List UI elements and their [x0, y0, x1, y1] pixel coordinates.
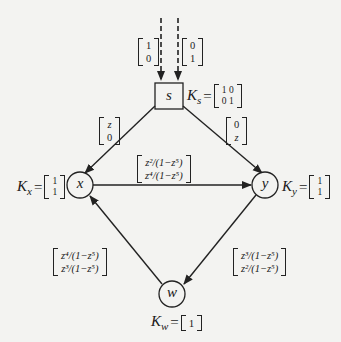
cell: 1 0 — [222, 85, 234, 96]
cell: 0 — [146, 52, 151, 65]
node-y-label: y — [252, 176, 278, 191]
cell: z — [107, 118, 112, 131]
input-vector-1: 10 — [138, 38, 159, 66]
equals: = — [34, 179, 42, 196]
cell: 0 — [107, 131, 112, 144]
k-w-symbol: Kw — [151, 313, 168, 332]
cell: z — [234, 131, 239, 144]
edge-w-x-vector: z⁴/(1−z⁵)z³/(1−z⁵) — [53, 248, 107, 276]
edge-x-y-vector: z²/(1−z⁵)z⁴/(1−z⁵) — [137, 155, 191, 183]
equals: = — [170, 314, 178, 331]
cell: z²/(1−z⁵) — [241, 262, 278, 275]
cell: 0 1 — [222, 96, 234, 107]
edge-y-w-vector: z³/(1−z⁵)z²/(1−z⁵) — [233, 248, 286, 276]
cell: z⁴/(1−z⁵) — [145, 169, 183, 182]
cell: z³/(1−z⁵) — [241, 249, 278, 262]
k-s-matrix: 1 00 1 — [214, 84, 242, 108]
equals: = — [203, 88, 211, 105]
cell: z⁴/(1−z⁵) — [61, 249, 99, 262]
cell: z³/(1−z⁵) — [61, 262, 99, 275]
cell: 1 — [317, 187, 322, 198]
cell: 0 — [234, 118, 239, 131]
cell: z²/(1−z⁵) — [145, 156, 183, 169]
node-x-label: x — [67, 176, 93, 191]
cell: 1 — [189, 316, 195, 330]
edge-s-y-vector: 0z — [226, 117, 247, 145]
cell: 1 — [190, 52, 195, 65]
k-s-label: Ks = 1 00 1 — [187, 84, 242, 108]
k-x-matrix: 11 — [44, 175, 65, 199]
cell: 1 — [317, 176, 322, 187]
cell: 1 — [146, 39, 151, 52]
cell: 1 — [52, 176, 57, 187]
k-x-symbol: Kx — [17, 178, 32, 197]
k-y-matrix: 11 — [309, 175, 330, 199]
input-vector-2: 01 — [182, 38, 203, 66]
node-w-label: w — [159, 285, 185, 300]
edge-s-x-vector: z0 — [99, 117, 120, 145]
edge-s-y — [183, 106, 262, 173]
k-w-label: Kw = 1 — [151, 313, 202, 332]
cell: 0 — [190, 39, 195, 52]
cell: 1 — [52, 187, 57, 198]
k-y-label: Ky = 11 — [282, 175, 330, 199]
node-s-label: s — [155, 88, 183, 103]
k-s-symbol: Ks — [187, 87, 201, 106]
k-x-label: Kx = 11 — [17, 175, 65, 199]
k-w-matrix: 1 — [181, 315, 203, 331]
k-y-symbol: Ky — [282, 178, 297, 197]
equals: = — [299, 179, 307, 196]
